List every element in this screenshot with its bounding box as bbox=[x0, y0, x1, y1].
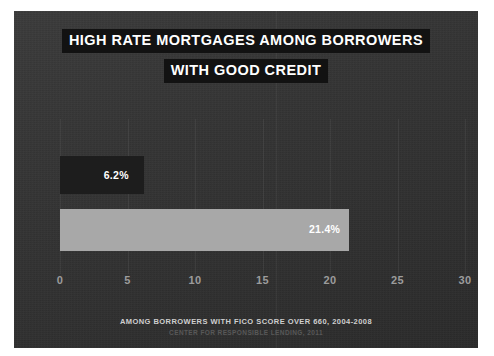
chart-figure: HIGH RATE MORTGAGES AMONG BORROWERS WITH… bbox=[0, 0, 494, 356]
bar-value-label-2: 21.4% bbox=[309, 223, 340, 235]
gridline bbox=[465, 119, 466, 274]
chart-title-line-1: HIGH RATE MORTGAGES AMONG BORROWERS bbox=[62, 29, 430, 53]
chart-source: CENTER FOR RESPONSIBLE LENDING, 2011 bbox=[14, 329, 478, 336]
x-axis: 0 5 10 15 20 25 30 bbox=[60, 274, 478, 294]
x-tick-label: 0 bbox=[57, 274, 63, 286]
chart-title: HIGH RATE MORTGAGES AMONG BORROWERS WITH… bbox=[14, 29, 478, 83]
chart-footnote: AMONG BORROWERS WITH FICO SCORE OVER 660… bbox=[14, 317, 478, 326]
gridline bbox=[398, 119, 399, 274]
chart-title-line-2: WITH GOOD CREDIT bbox=[164, 59, 329, 83]
x-tick-label: 5 bbox=[124, 274, 130, 286]
x-tick-label: 15 bbox=[256, 274, 269, 286]
bar-series-2 bbox=[60, 209, 349, 251]
plot-area: 6.2% 21.4% bbox=[60, 119, 478, 274]
bar-series-1 bbox=[60, 156, 144, 194]
x-tick-label: 30 bbox=[459, 274, 472, 286]
x-tick-label: 10 bbox=[189, 274, 202, 286]
chart-panel: HIGH RATE MORTGAGES AMONG BORROWERS WITH… bbox=[14, 11, 478, 348]
bar-value-label-1: 6.2% bbox=[104, 169, 129, 181]
x-tick-label: 25 bbox=[391, 274, 404, 286]
x-tick-label: 20 bbox=[324, 274, 337, 286]
